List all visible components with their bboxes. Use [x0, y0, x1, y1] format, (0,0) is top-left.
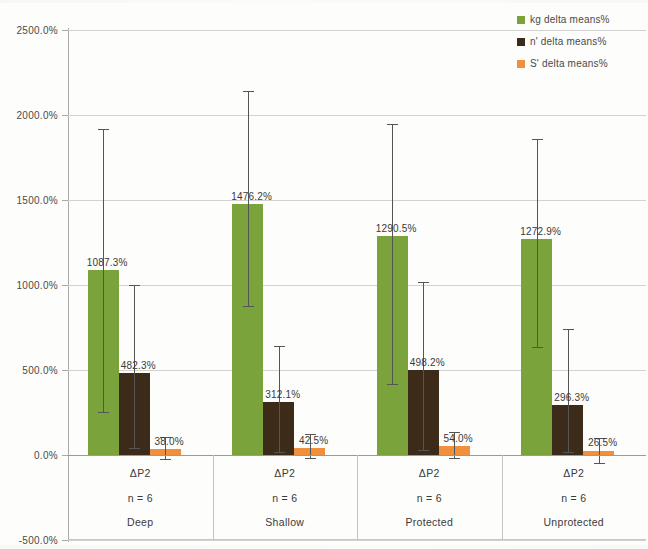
chart-container: 2500.0%2000.0%1500.0%1000.0%500.0%0.0%-5… — [0, 0, 648, 549]
y-axis-tick-label: 2000.0% — [16, 110, 58, 121]
category-sublabel: ΔP2 — [130, 467, 151, 479]
legend-item-3[interactable]: S' delta means% — [517, 58, 610, 69]
category-cell-shallow: ΔP2n = 6Shallow — [213, 455, 358, 540]
bar-value-label: 1087.3% — [87, 257, 128, 268]
bar-value-label: 26.5% — [588, 437, 617, 448]
legend-item-1[interactable]: kg delta means% — [517, 14, 610, 25]
legend-item-2[interactable]: n' delta means% — [517, 36, 610, 47]
category-name: Shallow — [265, 516, 304, 528]
category-sublabel: ΔP2 — [419, 467, 440, 479]
scan-artifact-top — [0, 0, 648, 3]
error-bar-cap-upper — [563, 329, 574, 330]
error-bar-cap-lower — [418, 450, 429, 451]
y-axis-tick — [62, 540, 68, 541]
error-bar-cap-upper — [274, 346, 285, 347]
y-axis-tick-label: 500.0% — [22, 365, 58, 376]
error-bar-cap-lower — [532, 347, 543, 348]
category-name: Deep — [127, 516, 153, 528]
bar-value-label: 312.1% — [265, 389, 300, 400]
category-sublabel: ΔP2 — [274, 467, 295, 479]
category-count: n = 6 — [128, 492, 153, 504]
category-count: n = 6 — [561, 492, 586, 504]
category-sublabel: ΔP2 — [563, 467, 584, 479]
category-cell-unprotected: ΔP2n = 6Unprotected — [502, 455, 647, 540]
gridline — [68, 285, 646, 286]
category-separator — [357, 455, 358, 540]
error-bar-cap-lower — [129, 448, 140, 449]
chart-legend: kg delta means%n' delta means%S' delta m… — [517, 14, 610, 69]
y-axis-tick — [62, 285, 68, 286]
y-axis-tick-label: 0.0% — [34, 450, 58, 461]
bar-value-label: 54.0% — [444, 433, 473, 444]
bar-value-label: 42.5% — [299, 435, 328, 446]
error-bar-cap-upper — [532, 139, 543, 140]
legend-swatch-kg — [517, 16, 525, 24]
category-separator — [502, 455, 503, 540]
category-count: n = 6 — [417, 492, 442, 504]
category-cell-deep: ΔP2n = 6Deep — [68, 455, 213, 540]
error-bar-cap-upper — [243, 91, 254, 92]
error-bar-cap-lower — [563, 452, 574, 453]
legend-swatch-sprime — [517, 60, 525, 68]
category-axis: ΔP2n = 6DeepΔP2n = 6ShallowΔP2n = 6Prote… — [68, 455, 646, 540]
gridline — [68, 200, 646, 201]
y-axis-tick — [62, 370, 68, 371]
error-bar-cap-upper — [387, 124, 398, 125]
error-bar-cap-upper — [129, 285, 140, 286]
category-count: n = 6 — [272, 492, 297, 504]
error-bar-line — [537, 139, 538, 347]
error-bar-line — [103, 129, 104, 412]
y-axis-tick — [62, 30, 68, 31]
bar-value-label: 1290.5% — [376, 223, 417, 234]
y-axis-tick — [62, 200, 68, 201]
gridline — [68, 115, 646, 116]
legend-label: S' delta means% — [530, 58, 608, 69]
error-bar-line — [392, 124, 393, 384]
error-bar-cap-upper — [98, 129, 109, 130]
category-cell-protected: ΔP2n = 6Protected — [357, 455, 502, 540]
y-axis-labels: 2500.0%2000.0%1500.0%1000.0%500.0%0.0%-5… — [0, 30, 64, 540]
error-bar-cap-lower — [98, 412, 109, 413]
legend-swatch-nprime — [517, 38, 525, 46]
error-bar-cap-lower — [387, 384, 398, 385]
error-bar-cap-upper — [418, 282, 429, 283]
bar-value-label: 498.2% — [410, 357, 445, 368]
bar-value-label: 1272.9% — [520, 226, 561, 237]
bar-value-label: 1476.2% — [231, 191, 272, 202]
category-name: Unprotected — [543, 516, 604, 528]
legend-label: kg delta means% — [530, 14, 610, 25]
y-axis-tick-label: -500.0% — [19, 535, 58, 546]
category-separator — [213, 455, 214, 540]
error-bar-line — [568, 329, 569, 451]
error-bar-cap-lower — [243, 306, 254, 307]
bar-value-label: 482.3% — [121, 360, 156, 371]
y-axis-tick-label: 1000.0% — [16, 280, 58, 291]
y-axis-tick-label: 1500.0% — [16, 195, 58, 206]
legend-label: n' delta means% — [530, 36, 607, 47]
gridline — [68, 540, 646, 541]
scan-artifact-bottom — [0, 545, 648, 549]
error-bar-cap-lower — [274, 452, 285, 453]
category-name: Protected — [405, 516, 453, 528]
bar-value-label: 38.0% — [155, 436, 184, 447]
y-axis-tick — [62, 115, 68, 116]
y-axis-tick-label: 2500.0% — [16, 25, 58, 36]
bar-value-label: 296.3% — [554, 392, 589, 403]
